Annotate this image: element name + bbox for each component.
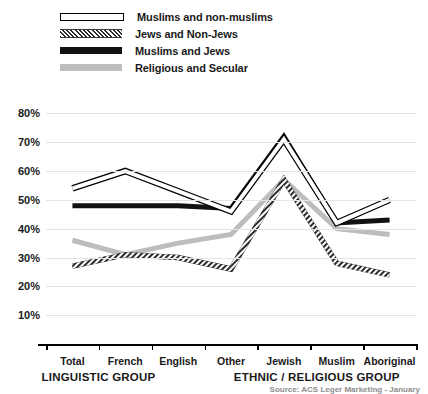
x-axis-labels: TotalFrenchEnglishOtherJewishMuslimAbori… [46, 355, 416, 369]
x-axis-category-label: Total [60, 355, 84, 367]
legend-item-label: Muslims and Jews [135, 45, 230, 57]
x-axis-category-label: English [159, 355, 197, 367]
y-axis-tick-label: 80% [18, 107, 40, 119]
chart-legend: Muslims and non-muslimsJews and Non-Jews… [60, 8, 273, 76]
legend-item-label: Muslims and non-muslims [137, 11, 273, 23]
gridline [46, 229, 416, 230]
gridline [46, 258, 416, 259]
legend-item-label: Religious and Secular [135, 62, 248, 74]
y-axis-tick-label: 20% [18, 280, 40, 292]
x-axis-tick-mark [152, 344, 154, 350]
line-swatch-gray-icon [60, 64, 122, 71]
legend-item: Religious and Secular [60, 59, 273, 76]
x-axis-tick-mark [257, 344, 259, 350]
legend-item: Jews and Non-Jews [60, 25, 273, 42]
y-axis-tick-label: 70% [18, 136, 40, 148]
x-axis-category-label: Aboriginal [364, 355, 416, 367]
gridline [46, 113, 416, 114]
legend-item: Muslims and Jews [60, 42, 273, 59]
line-swatch-solid-black-icon [60, 47, 122, 54]
legend-item: Muslims and non-muslims [60, 8, 273, 25]
y-axis-tick-label: 10% [18, 309, 40, 321]
y-axis-tick-label: 50% [18, 194, 40, 206]
x-axis-tick-mark [363, 344, 365, 350]
x-axis-tick-mark [416, 344, 418, 350]
x-axis-line [38, 344, 416, 346]
series-lines [46, 99, 416, 344]
x-axis-category-label: Muslim [319, 355, 355, 367]
y-axis-tick-label: 60% [18, 165, 40, 177]
x-axis-tick-mark [46, 344, 48, 350]
x-axis-category-label: Other [217, 355, 245, 367]
x-axis-tick-mark [310, 344, 312, 350]
source-note: Source: ACS Leger Marketing - January [270, 385, 420, 394]
x-axis-tick-mark [205, 344, 207, 350]
gridline [46, 142, 416, 143]
y-axis-tick-label: 40% [18, 223, 40, 235]
x-axis-category-label: French [108, 355, 143, 367]
x-axis-category-label: Jewish [266, 355, 301, 367]
gridline [46, 315, 416, 316]
y-axis-tick-label: 30% [18, 252, 40, 264]
x-axis-group-title: LINGUISTIC GROUP [42, 371, 156, 383]
x-axis-group-titles: LINGUISTIC GROUPETHNIC / RELIGIOUS GROUP [0, 371, 428, 385]
plot-area: 80%70%60%50%40%30%20%10% [46, 99, 416, 344]
gridline [46, 286, 416, 287]
legend-item-label: Jews and Non-Jews [135, 28, 238, 40]
line-swatch-hatched-icon [60, 29, 122, 38]
gridline [46, 200, 416, 201]
x-axis-group-title: ETHNIC / RELIGIOUS GROUP [234, 371, 400, 383]
x-axis-tick-mark [99, 344, 101, 350]
gridline [46, 171, 416, 172]
line-swatch-hollow-icon [60, 13, 124, 21]
series-line-muslims-and-non-muslims [72, 139, 389, 223]
